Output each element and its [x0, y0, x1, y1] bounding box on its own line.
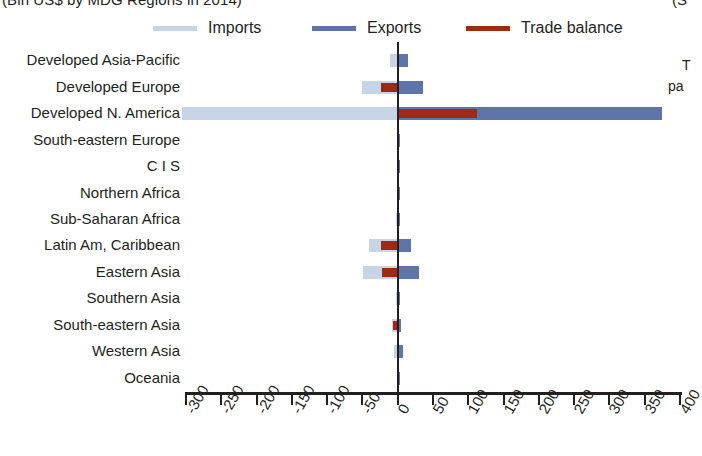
- bar-trade-balance: [382, 268, 398, 277]
- legend-item-imports: Imports: [153, 16, 261, 40]
- bar-trade-balance: [398, 109, 478, 118]
- bar-row: [186, 80, 680, 96]
- bar-row: [186, 291, 680, 307]
- legend-label-imports: Imports: [208, 19, 261, 37]
- bar-row: [186, 318, 680, 334]
- legend-label-exports: Exports: [367, 19, 421, 37]
- bar-row: [186, 265, 680, 281]
- bar-row: [186, 159, 680, 175]
- bar-exports: [398, 54, 408, 67]
- bar-row: [186, 53, 680, 69]
- category-label: South-eastern Europe: [0, 133, 180, 147]
- zero-axis-line: [397, 42, 399, 392]
- bar-row: [186, 106, 680, 122]
- legend-swatch-imports: [153, 26, 197, 31]
- bar-rows: [186, 48, 680, 392]
- plot-area: [186, 48, 680, 392]
- category-label: C I S: [0, 159, 180, 173]
- category-axis-labels: Developed Asia-PacificDeveloped EuropeDe…: [0, 48, 180, 392]
- legend-swatch-trade-balance: [466, 26, 510, 31]
- bar-row: [186, 212, 680, 228]
- category-label: Western Asia: [0, 344, 180, 358]
- category-label: Developed N. America: [0, 106, 180, 120]
- bar-row: [186, 186, 680, 202]
- chart-title-right-fragment: (S: [672, 0, 687, 8]
- category-label: Latin Am, Caribbean: [0, 238, 180, 252]
- bar-exports: [398, 81, 423, 94]
- category-label: Developed Asia-Pacific: [0, 53, 180, 67]
- category-label: Oceania: [0, 371, 180, 385]
- category-label: Eastern Asia: [0, 265, 180, 279]
- category-label: Sub-Saharan Africa: [0, 212, 180, 226]
- chart-title: (Bln US$ by MDG Regions in 2014): [2, 0, 242, 8]
- legend-item-trade-balance: Trade balance: [466, 16, 623, 40]
- category-label: Developed Europe: [0, 80, 180, 94]
- legend-label-trade-balance: Trade balance: [521, 19, 623, 37]
- x-tick-label: 0: [394, 401, 413, 417]
- chart-legend: Imports Exports Trade balance: [0, 16, 702, 40]
- trade-chart: (Bln US$ by MDG Regions in 2014) (S T pa…: [0, 0, 702, 456]
- legend-item-exports: Exports: [312, 16, 421, 40]
- legend-swatch-exports: [312, 26, 356, 31]
- bar-imports: [182, 107, 397, 120]
- bar-row: [186, 371, 680, 387]
- bar-exports: [398, 239, 411, 252]
- bar-row: [186, 133, 680, 149]
- category-label: Southern Asia: [0, 291, 180, 305]
- bar-trade-balance: [381, 241, 397, 250]
- side-note-fragment-1: T: [682, 57, 691, 73]
- bar-trade-balance: [381, 83, 398, 92]
- bar-row: [186, 344, 680, 360]
- bar-row: [186, 238, 680, 254]
- category-label: Northern Africa: [0, 186, 180, 200]
- bar-exports: [398, 266, 419, 279]
- category-label: South-eastern Asia: [0, 318, 180, 332]
